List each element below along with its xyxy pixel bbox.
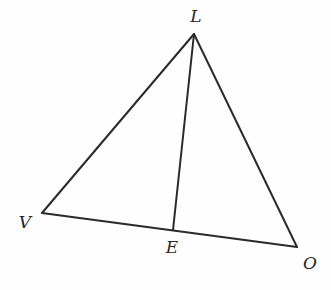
geometry-figure: L V E O xyxy=(0,0,331,290)
vertex-label-O: O xyxy=(303,255,317,272)
segment-l-e xyxy=(173,34,194,230)
segment-v-l xyxy=(42,34,194,213)
vertex-label-E: E xyxy=(166,239,179,256)
vertex-label-L: L xyxy=(190,8,202,25)
segment-l-o xyxy=(194,34,297,247)
segments-group xyxy=(42,34,297,247)
vertex-label-V: V xyxy=(19,214,31,231)
